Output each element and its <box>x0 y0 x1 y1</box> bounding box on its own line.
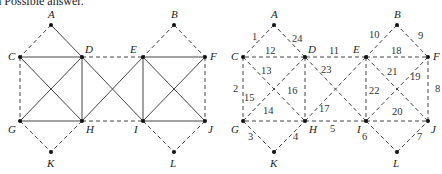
edge-number-14: 14 <box>263 105 274 116</box>
edge-number-22: 22 <box>369 85 380 96</box>
edge-number-9: 9 <box>418 30 423 41</box>
node-label-c: C <box>8 50 16 62</box>
edge-JL <box>174 121 205 152</box>
node-label-b: B <box>394 8 401 20</box>
edge-LJ <box>397 121 428 152</box>
edge-HK <box>51 121 82 152</box>
edge-number-5: 5 <box>330 123 335 134</box>
node-label-e: E <box>352 43 360 55</box>
edge-number-19: 19 <box>410 71 421 82</box>
node-label-l: L <box>392 157 399 169</box>
edge-FB <box>397 25 428 57</box>
node-label-l: L <box>169 157 176 169</box>
edge-AD <box>51 25 82 57</box>
node-e <box>141 55 145 59</box>
node-label-a: A <box>270 8 278 20</box>
node-label-h: H <box>308 123 318 135</box>
edge-number-21: 21 <box>387 66 398 77</box>
node-label-i: I <box>133 123 139 135</box>
edge-number-3: 3 <box>248 131 253 142</box>
node-b <box>395 23 399 27</box>
edge-number-2: 2 <box>233 83 238 94</box>
node-b <box>172 23 176 27</box>
edge-number-4: 4 <box>293 131 299 142</box>
edge-number-17: 17 <box>319 103 330 114</box>
node-a <box>272 23 276 27</box>
node-label-f: F <box>209 50 217 62</box>
node-a <box>49 23 53 27</box>
node-f <box>426 55 430 59</box>
node-label-a: A <box>47 8 55 20</box>
node-d <box>80 55 84 59</box>
edge-number-18: 18 <box>391 45 402 56</box>
node-h <box>303 119 307 123</box>
node-e <box>364 55 368 59</box>
edge-IL <box>143 121 174 152</box>
node-c <box>18 55 22 59</box>
node-j <box>426 119 430 123</box>
node-l <box>172 150 176 154</box>
node-j <box>203 119 207 123</box>
right-graph: 123456789101112131415161718192021222324A… <box>231 8 440 169</box>
edge-number-16: 16 <box>287 85 298 96</box>
edge-number-24: 24 <box>292 33 303 44</box>
node-label-d: D <box>307 43 316 55</box>
node-k <box>49 150 53 154</box>
node-label-e: E <box>129 43 137 55</box>
node-g <box>241 119 245 123</box>
edge-KH <box>274 121 305 152</box>
node-label-k: K <box>269 157 278 169</box>
edge-number-8: 8 <box>435 83 440 94</box>
node-f <box>203 55 207 59</box>
node-label-g: G <box>231 123 239 135</box>
node-h <box>80 119 84 123</box>
edge-number-10: 10 <box>369 29 380 40</box>
edge-number-23: 23 <box>321 64 332 75</box>
edge-number-11: 11 <box>329 45 339 56</box>
edge-number-15: 15 <box>244 92 255 103</box>
node-l <box>395 150 399 154</box>
node-label-b: B <box>171 8 178 20</box>
node-label-d: D <box>84 43 93 55</box>
node-label-j: J <box>431 123 437 135</box>
edge-BE <box>143 25 174 57</box>
edge-number-12: 12 <box>265 45 276 56</box>
edge-BF <box>174 25 205 57</box>
edge-number-13: 13 <box>261 65 272 76</box>
node-label-c: C <box>231 50 239 62</box>
node-label-h: H <box>85 123 95 135</box>
node-k <box>272 150 276 154</box>
node-label-g: G <box>8 123 16 135</box>
node-i <box>141 119 145 123</box>
edge-GK <box>20 121 51 152</box>
node-label-k: K <box>46 157 55 169</box>
node-g <box>18 119 22 123</box>
node-label-f: F <box>432 50 440 62</box>
edge-AC <box>20 25 51 57</box>
edge-number-1: 1 <box>252 31 257 42</box>
graph-diagram: ABCDEFGHIJKL 123456789101112131415161718… <box>0 0 442 174</box>
left-graph: ABCDEFGHIJKL <box>8 8 217 169</box>
edge-ID <box>305 57 366 121</box>
edge-number-6: 6 <box>362 131 367 142</box>
node-label-j: J <box>208 123 214 135</box>
edge-number-7: 7 <box>417 131 422 142</box>
node-i <box>364 119 368 123</box>
node-d <box>303 55 307 59</box>
edge-IL <box>366 121 397 152</box>
edge-number-20: 20 <box>392 106 403 117</box>
node-c <box>241 55 245 59</box>
